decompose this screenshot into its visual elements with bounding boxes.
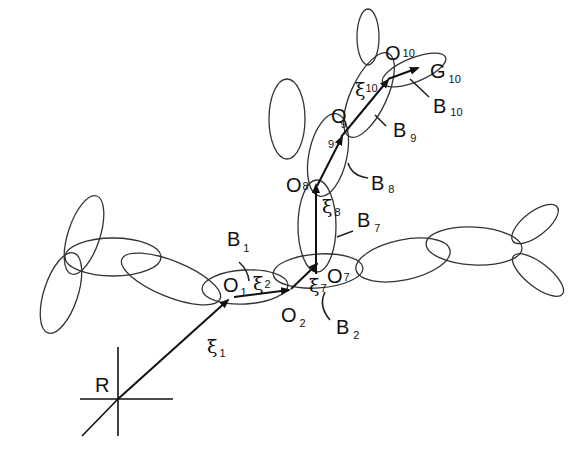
label-B2: B2 bbox=[336, 316, 359, 341]
label-O8: O8 bbox=[286, 174, 309, 196]
leader-B10 bbox=[410, 79, 429, 97]
right-branch-bodies bbox=[352, 197, 570, 303]
body-ellipse-left-up bbox=[56, 191, 112, 279]
body-ellipse-right-link bbox=[352, 230, 454, 289]
label-B10: B10 bbox=[433, 95, 463, 118]
label-R: R bbox=[95, 374, 109, 396]
body-ellipse-right-down bbox=[506, 246, 570, 303]
left-branch-bodies bbox=[32, 191, 227, 338]
multibody-chain-diagram: R ξ1 O1 ξ2 B1 O2 ξ7 O7 B2 ξ8 B7 O8 bbox=[0, 0, 588, 462]
body-ellipse-left-down bbox=[32, 248, 90, 338]
label-B8: B8 bbox=[371, 172, 394, 195]
label-B7: B7 bbox=[357, 209, 380, 234]
label-xi1: ξ1 bbox=[207, 335, 226, 359]
body-O10-loop-ellipse bbox=[357, 9, 379, 65]
label-B9: B9 bbox=[393, 119, 416, 144]
leader-B1 bbox=[239, 262, 249, 281]
label-xi7: ξ7 bbox=[309, 274, 327, 296]
label-O7: O7 bbox=[327, 265, 350, 287]
body-B8-ellipse bbox=[301, 110, 356, 200]
leader-B9 bbox=[375, 115, 386, 126]
label-O2: O2 bbox=[281, 304, 306, 329]
body-ellipse-right-up bbox=[506, 197, 565, 250]
label-sub9-link: 9 bbox=[328, 138, 334, 150]
axis-diagonal bbox=[82, 399, 118, 436]
label-G10: G10 bbox=[430, 60, 461, 85]
label-O1: O1 bbox=[223, 274, 247, 298]
leader-B8 bbox=[348, 163, 368, 178]
leader-B2 bbox=[322, 292, 330, 320]
label-B1: B1 bbox=[227, 228, 249, 254]
body-isolated-ellipse bbox=[269, 79, 305, 159]
body-ellipse-right-hub bbox=[425, 225, 523, 268]
label-O10: O10 bbox=[385, 42, 415, 64]
leader-B7 bbox=[337, 231, 353, 237]
label-O9: O9 bbox=[331, 105, 347, 130]
label-xi8: ξ8 bbox=[322, 195, 341, 218]
label-xi2: ξ2 bbox=[253, 272, 271, 294]
vector-to-G10 bbox=[388, 68, 418, 79]
